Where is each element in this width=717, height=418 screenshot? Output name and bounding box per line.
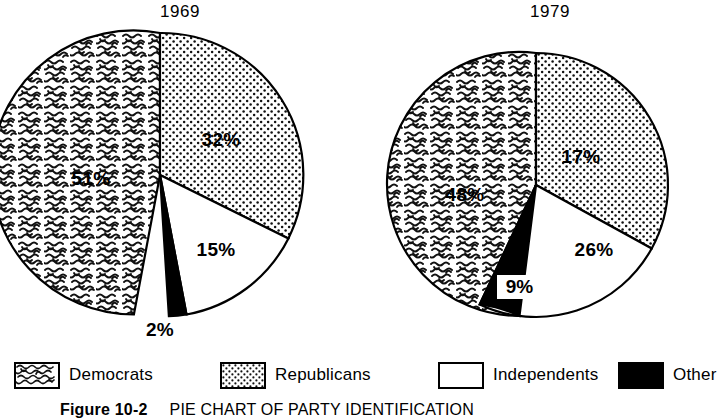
black-swatch-icon [618,362,664,389]
legend-label-democrats: Democrats [69,365,153,385]
slice-label-democrats-1979: 48% [446,184,485,205]
figure-caption-text: PIE CHART OF PARTY IDENTIFICATION [170,401,474,418]
slice-label-democrats-1969: 51% [72,168,111,189]
pie-chart-1969: 32% 15% 2% 51% [18,33,302,317]
figure-caption-label: Figure 10-2 [60,401,148,418]
legend-item-other: Other [618,358,717,392]
pie-chart-1979: 17% 26% 9% 48% [404,53,668,317]
slice-label-independents-1979: 26% [575,239,614,260]
slice-label-other-1969: 2% [146,319,174,340]
squiggle-texture-swatch-icon [14,362,60,389]
figure-caption: Figure 10-2PIE CHART OF PARTY IDENTIFICA… [60,401,684,418]
slice-label-independents-1969: 15% [197,239,236,260]
legend-label-other: Other [673,365,717,385]
pie-title-1969: 1969 [120,2,240,22]
legend-item-democrats: Democrats [14,358,153,392]
white-swatch-icon [438,362,484,389]
legend-item-republicans: Republicans [220,358,371,392]
slice-label-republicans-1979: 17% [562,146,601,167]
chart-legend: Democrats Republicans I [8,358,684,392]
legend-label-independents: Independents [493,365,598,385]
pie-title-1979: 1979 [490,2,610,22]
stipple-dots-swatch-icon [220,362,266,389]
legend-label-republicans: Republicans [275,365,371,385]
legend-item-independents: Independents [438,358,598,392]
slice-label-other-1979: 9% [506,276,534,297]
slice-label-republicans-1969: 32% [202,129,241,150]
